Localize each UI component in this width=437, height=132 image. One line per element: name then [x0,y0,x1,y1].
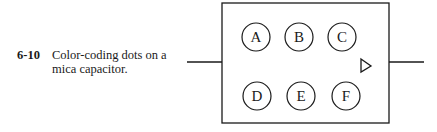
dot-label: A [251,29,262,45]
dot-f: F [332,82,360,110]
orientation-arrow-icon [361,59,371,72]
dot-label: B [294,29,304,45]
dot-label: C [337,29,347,45]
dot-a: A [242,23,270,51]
dot-label: F [342,88,350,104]
dot-d: D [243,82,271,110]
dot-b: B [285,23,313,51]
dot-c: C [328,23,356,51]
dot-label: E [296,88,305,104]
dot-label: D [252,88,263,104]
dot-e: E [287,82,315,110]
capacitor-diagram: A B C D E F [0,0,437,132]
